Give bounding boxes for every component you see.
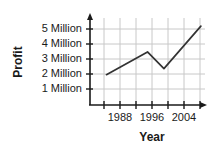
y-axis-arrow-icon (87, 13, 93, 20)
x-axis-title: Year (139, 130, 165, 144)
x-tick-label-2004: 2004 (172, 111, 196, 123)
x-tick-label-1996: 1996 (140, 111, 164, 123)
chart-canvas: 5 Million 4 Million 3 Million 2 Million … (0, 0, 212, 147)
profit-data-line (106, 26, 200, 75)
y-tick-label-5: 5 Million (42, 22, 82, 34)
grid-lines (90, 18, 205, 104)
y-tick-label-1: 1 Million (42, 82, 82, 94)
y-tick-label-4: 4 Million (42, 37, 82, 49)
x-axis-arrow-icon (200, 102, 207, 108)
x-tick-label-1988: 1988 (108, 111, 132, 123)
y-tick-label-2: 2 Million (42, 67, 82, 79)
profit-vs-year-line-chart: 5 Million 4 Million 3 Million 2 Million … (0, 0, 212, 147)
y-axis-title: Profit (11, 46, 25, 77)
y-tick-label-3: 3 Million (42, 52, 82, 64)
